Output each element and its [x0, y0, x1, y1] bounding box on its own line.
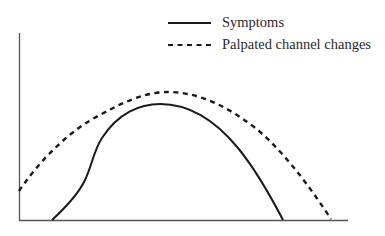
legend-palpated-label: Palpated channel changes — [222, 37, 371, 52]
series-palpated-channel-changes — [19, 92, 331, 219]
legend-symptoms-label: Symptoms — [222, 15, 284, 30]
